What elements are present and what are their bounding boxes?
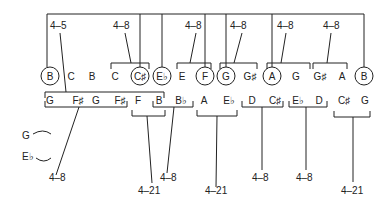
slur-lower	[36, 158, 51, 161]
top-brackets	[60, 33, 347, 92]
note-top-12: G♯	[314, 71, 327, 82]
note-bot-3: F♯	[114, 95, 125, 106]
note-top-8: G	[222, 71, 230, 82]
note-bot-5: B	[156, 95, 163, 106]
note-bot-10: C♯	[269, 95, 281, 106]
note-bot-11: E♭	[292, 95, 304, 106]
note-bot-2: G	[92, 95, 100, 106]
note-top-11: G	[292, 71, 300, 82]
top-row: B C B C C♯ E♭ E F G G♯ A G G♯ A B	[41, 67, 373, 85]
bottom-row: G F♯ G F♯ F B B♭ A E♭ D C♯ E♭ D C♯ G	[46, 95, 369, 106]
diagram-svg: 4–5 4–8 4–8 4–8 4–8 4–8 B C B C C♯ E♭ E …	[0, 0, 390, 205]
note-bot-4: F	[135, 95, 141, 106]
label-bot-4-8-a: 4–8	[49, 172, 66, 183]
label-4-8-e: 4–8	[323, 20, 340, 31]
note-top-14: B	[361, 71, 368, 82]
note-top-1: C	[67, 71, 74, 82]
label-bot-4-21-a: 4–21	[138, 185, 161, 196]
note-bot-1: F♯	[72, 95, 83, 106]
note-bot-14: G	[361, 95, 369, 106]
note-bot-9: D	[248, 95, 255, 106]
note-top-13: A	[339, 71, 346, 82]
label-4-8-b: 4–8	[185, 20, 202, 31]
note-bot-0: G	[46, 95, 54, 106]
note-top-7: F	[202, 71, 208, 82]
top-beam	[47, 14, 364, 67]
note-top-10: A	[269, 71, 276, 82]
music-analysis-diagram: 4–5 4–8 4–8 4–8 4–8 4–8 B C B C C♯ E♭ E …	[0, 0, 390, 205]
top-labels: 4–5 4–8 4–8 4–8 4–8 4–8	[50, 20, 340, 31]
label-bot-4-8-c: 4–8	[252, 172, 269, 183]
note-top-0: B	[47, 71, 54, 82]
label-bot-4-21-b: 4–21	[205, 185, 228, 196]
note-top-4: C♯	[134, 71, 146, 82]
note-top-6: E	[179, 71, 186, 82]
slur-upper	[33, 131, 51, 134]
side-note-G: G	[22, 130, 30, 141]
note-bot-13: C♯	[338, 95, 350, 106]
bottom-top-bracket	[45, 92, 164, 98]
note-bot-6: B♭	[175, 95, 187, 106]
side-notes: G E♭	[22, 130, 51, 162]
label-bot-4-8-d: 4–8	[296, 172, 313, 183]
label-4-5: 4–5	[50, 20, 67, 31]
label-4-8-a: 4–8	[113, 20, 130, 31]
bottom-labels: 4–8 4–21 4–8 4–21 4–8 4–8 4–21	[49, 172, 364, 196]
note-bot-7: A	[201, 95, 208, 106]
note-top-2: B	[89, 71, 96, 82]
note-bot-8: E♭	[223, 95, 235, 106]
label-4-8-d: 4–8	[277, 20, 294, 31]
label-bot-4-21-c: 4–21	[341, 185, 364, 196]
side-note-Eflat: E♭	[22, 151, 34, 162]
note-top-5: E♭	[156, 71, 168, 82]
label-4-8-c: 4–8	[230, 20, 247, 31]
label-bot-4-8-b: 4–8	[160, 172, 177, 183]
note-top-9: G♯	[244, 71, 257, 82]
note-bot-12: D	[315, 95, 322, 106]
note-top-3: C	[111, 71, 118, 82]
